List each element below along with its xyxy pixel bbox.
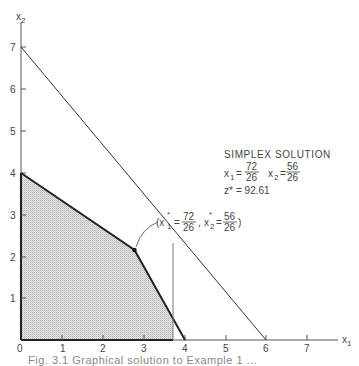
svg-text:72: 72 [246,161,258,172]
figure-caption: Fig. 3.1 Graphical solution to Example 1… [28,354,348,366]
x-tick-label: 7 [304,343,310,354]
y-tick-label: 6 [10,84,16,95]
y-tick-label: 7 [10,42,16,53]
x-tick-label: 1 [60,343,66,354]
svg-text:(x: (x [156,217,164,228]
svg-text:z*: z* [224,185,233,196]
svg-text:56: 56 [224,211,236,222]
svg-text:*: * [209,210,212,219]
svg-text:26: 26 [224,222,236,233]
x-axis-title: x1 [342,334,352,348]
svg-text:=: = [280,168,286,179]
svg-text:SIMPLEX SOLUTION: SIMPLEX SOLUTION [224,149,331,160]
leader-curve [136,222,158,247]
x-tick-label: 4 [182,343,188,354]
svg-text:*: * [167,210,170,219]
optimum-label: (x 1 * = 72 26 , x 2 * = 56 26 ) [156,210,241,233]
svg-text:2: 2 [274,173,279,182]
svg-text:= 92.61: = 92.61 [236,185,270,196]
svg-text:1: 1 [230,173,235,182]
x-tick-label: 5 [223,343,229,354]
svg-text:26: 26 [287,172,299,183]
x-tick-label: 0 [17,343,23,354]
svg-text:2: 2 [210,222,215,231]
y-tick-label: 3 [10,210,16,221]
svg-text:1: 1 [167,222,172,231]
svg-text:=: = [174,217,180,228]
svg-text:56: 56 [287,161,299,172]
simplex-solution: SIMPLEX SOLUTION x 1 = 72 26 x 2 = 56 26… [224,149,331,196]
svg-text:,: , [198,217,201,228]
x-tick-label: 2 [100,343,106,354]
svg-text:=: = [236,168,242,179]
feasible-region [21,173,173,340]
x-tick-label: 6 [263,343,269,354]
y-tick-label: 2 [10,252,16,263]
y-axis-title: x2 [16,11,26,25]
optimum-point [132,248,136,252]
svg-text:26: 26 [183,222,195,233]
y-tick-label: 1 [10,293,16,304]
y-tick-label: 5 [10,126,16,137]
svg-text:72: 72 [183,211,195,222]
svg-text:x: x [224,168,229,179]
y-tick-label: 4 [10,168,16,179]
svg-text:=: = [216,217,222,228]
svg-text:26: 26 [246,172,258,183]
svg-text:): ) [238,217,241,228]
x-tick-label: 3 [141,343,147,354]
svg-text:x: x [268,168,273,179]
